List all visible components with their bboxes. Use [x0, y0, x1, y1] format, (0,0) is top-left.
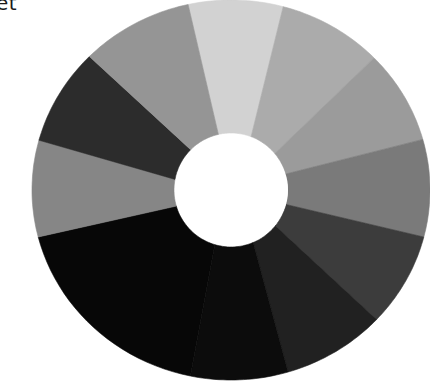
value-wheel: [0, 0, 430, 383]
center-hole: [178, 137, 288, 243]
segment-bottom-left: [38, 206, 215, 376]
